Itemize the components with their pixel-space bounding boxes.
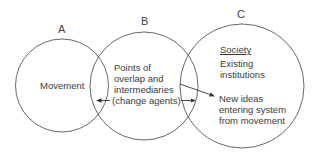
- text-c-line3: New ideas: [219, 93, 263, 104]
- text-c-line5: from movement: [219, 115, 285, 126]
- text-movement: Movement: [40, 80, 84, 91]
- text-c-line1: Existing: [220, 58, 253, 69]
- circle-c: [180, 24, 304, 148]
- label-c: C: [237, 8, 245, 20]
- text-society-heading: Society: [220, 44, 251, 55]
- text-c-line2: institutions: [220, 69, 265, 80]
- text-b-line3: intermediaries: [114, 84, 174, 95]
- text-b-line4: (change agents): [112, 95, 181, 106]
- label-b: B: [141, 15, 148, 27]
- label-a: A: [58, 23, 65, 35]
- text-b-line1: Points of: [114, 62, 151, 73]
- text-c-line4: entering system: [219, 104, 286, 115]
- text-b-line2: overlap and: [114, 73, 164, 84]
